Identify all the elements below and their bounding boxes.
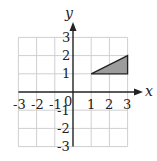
x-axis-arrow-icon: [134, 89, 143, 96]
y-tick-label: -2: [57, 121, 70, 136]
y-tick-label: -3: [57, 139, 70, 154]
y-axis-arrow-icon: [70, 22, 77, 31]
x-tick-labels: -3 -2 -1 0 1 2 3: [13, 94, 131, 112]
x-tick-label: -2: [31, 97, 44, 112]
x-tick-label: 1: [87, 97, 95, 112]
coordinate-plane: x y -3 -2 -1 0 1 2 3 3 2 1 -1 -2 -3: [0, 0, 157, 161]
y-tick-label: 3: [62, 30, 70, 45]
y-tick-label: -1: [57, 103, 70, 118]
y-axis-label: y: [64, 5, 74, 21]
x-tick-label: -3: [13, 97, 26, 112]
x-tick-label: 2: [105, 97, 113, 112]
y-tick-label: 2: [62, 48, 70, 63]
x-axis-label: x: [145, 83, 153, 99]
y-tick-label: 1: [62, 66, 70, 81]
x-tick-label: 3: [123, 97, 131, 112]
